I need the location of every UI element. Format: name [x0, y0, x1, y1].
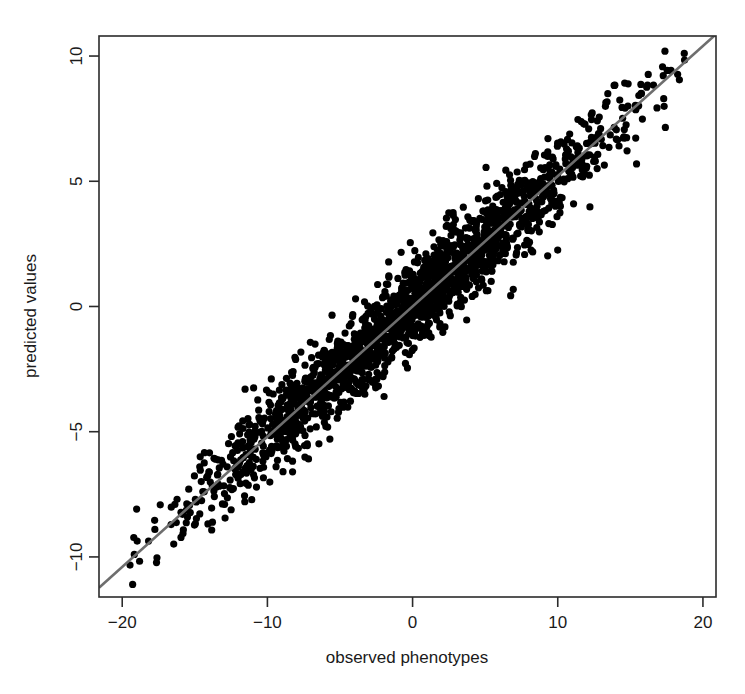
- scatter-point: [191, 521, 198, 528]
- scatter-point: [151, 526, 158, 533]
- scatter-point: [421, 271, 428, 278]
- scatter-point: [256, 465, 263, 472]
- scatter-point: [321, 389, 328, 396]
- scatter-point: [379, 294, 386, 301]
- scatter-point: [482, 217, 489, 224]
- scatter-point: [283, 428, 290, 435]
- scatter-point: [211, 493, 218, 500]
- scatter-point: [482, 164, 489, 171]
- scatter-point: [352, 295, 359, 302]
- scatter-point: [405, 319, 412, 326]
- scatter-point: [340, 399, 347, 406]
- scatter-point: [377, 350, 384, 357]
- scatter-point: [589, 109, 596, 116]
- scatter-point: [632, 134, 639, 141]
- scatter-point: [604, 90, 611, 97]
- scatter-point: [326, 435, 333, 442]
- scatter-point: [435, 236, 442, 243]
- scatter-point: [501, 258, 508, 265]
- scatter-point: [347, 398, 354, 405]
- scatter-point: [486, 261, 493, 268]
- scatter-point: [502, 188, 509, 195]
- scatter-point: [653, 104, 660, 111]
- scatter-point: [359, 384, 366, 391]
- scatter-point: [334, 415, 341, 422]
- scatter-point: [412, 278, 419, 285]
- x-tick-label: −20: [108, 613, 137, 632]
- scatter-point: [483, 183, 490, 190]
- scatter-point: [471, 265, 478, 272]
- scatter-point: [618, 104, 625, 111]
- scatter-point: [661, 48, 668, 55]
- x-axis-label: observed phenotypes: [326, 648, 489, 667]
- scatter-point: [221, 501, 228, 508]
- scatter-point: [225, 440, 232, 447]
- scatter-point: [241, 498, 248, 505]
- scatter-point: [266, 408, 273, 415]
- x-tick-label: −10: [253, 613, 282, 632]
- y-tick-label: 0: [68, 302, 87, 311]
- scatter-point: [324, 362, 331, 369]
- scatter-point: [544, 153, 551, 160]
- scatter-point: [204, 472, 211, 479]
- scatter-point: [409, 347, 416, 354]
- scatter-point: [366, 376, 373, 383]
- scatter-point: [297, 349, 304, 356]
- scatter-point: [489, 247, 496, 254]
- scatter-point: [566, 130, 573, 137]
- scatter-point: [494, 193, 501, 200]
- scatter-point: [605, 144, 612, 151]
- scatter-point: [676, 76, 683, 83]
- scatter-point: [266, 478, 273, 485]
- scatter-point: [540, 166, 547, 173]
- scatter-point: [409, 285, 416, 292]
- scatter-point: [570, 200, 577, 207]
- scatter-point: [544, 135, 551, 142]
- scatter-point: [309, 365, 316, 372]
- scatter-point: [136, 558, 143, 565]
- scatter-point: [436, 309, 443, 316]
- scatter-point: [221, 490, 228, 497]
- scatter-point: [601, 161, 608, 168]
- scatter-point: [307, 425, 314, 432]
- scatter-point: [284, 455, 291, 462]
- scatter-point: [299, 409, 306, 416]
- scatter-point: [422, 256, 429, 263]
- scatter-point: [405, 340, 412, 347]
- scatter-point: [250, 463, 257, 470]
- scatter-point: [594, 151, 601, 158]
- scatter-point: [438, 257, 445, 264]
- scatter-point: [410, 295, 417, 302]
- scatter-point: [418, 284, 425, 291]
- scatter-point: [234, 424, 241, 431]
- scatter-point: [380, 393, 387, 400]
- scatter-point: [429, 229, 436, 236]
- scatter-point: [183, 519, 190, 526]
- scatter-point: [531, 153, 538, 160]
- scatter-point: [253, 483, 260, 490]
- y-tick-label: −10: [68, 543, 87, 572]
- scatter-point: [507, 182, 514, 189]
- scatter-point: [547, 169, 554, 176]
- scatter-point: [432, 290, 439, 297]
- scatter-point: [461, 269, 468, 276]
- scatter-point: [201, 449, 208, 456]
- scatter-point: [294, 427, 301, 434]
- scatter-point: [472, 291, 479, 298]
- scatter-point: [268, 447, 275, 454]
- scatter-point: [458, 303, 465, 310]
- scatter-point: [407, 239, 414, 246]
- scatter-point: [529, 248, 536, 255]
- scatter-point: [470, 240, 477, 247]
- scatter-point: [521, 177, 528, 184]
- scatter-point: [661, 103, 668, 110]
- scatter-point: [623, 134, 630, 141]
- scatter-point: [434, 264, 441, 271]
- scatter-point: [177, 534, 184, 541]
- scatter-point: [204, 520, 211, 527]
- scatter-point: [499, 240, 506, 247]
- scatter-point: [611, 82, 618, 89]
- scatter-point: [644, 82, 651, 89]
- scatter-point: [295, 445, 302, 452]
- scatter-point: [414, 259, 421, 266]
